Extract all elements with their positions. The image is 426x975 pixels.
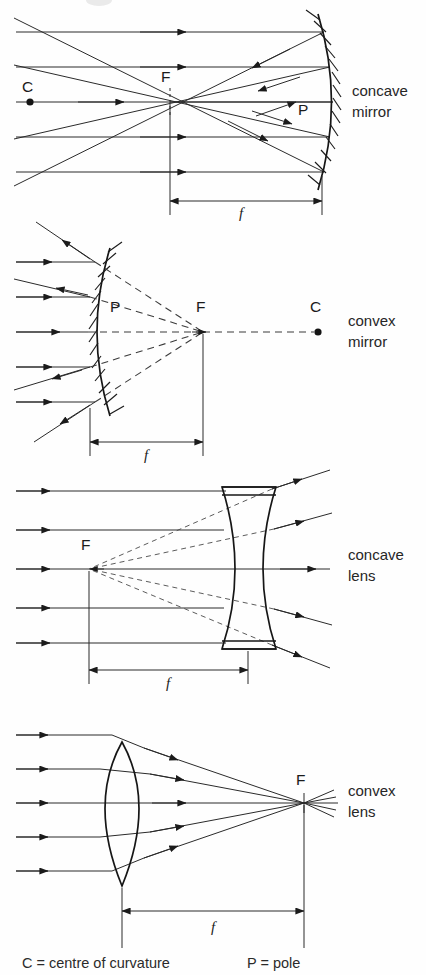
caption-concave-mirror-line1: concave xyxy=(352,82,408,99)
incident-ray-arrowheads-2 xyxy=(16,262,60,402)
convex-mirror-surface xyxy=(89,242,124,416)
concave-mirror-surface xyxy=(306,10,341,190)
label-focal-point-4: F xyxy=(296,771,305,788)
convex-lens-body xyxy=(105,742,139,886)
incident-rays-group-3 xyxy=(16,491,330,643)
diagram-convex-lens: F f convex lens xyxy=(16,735,396,948)
centre-of-curvature-point-2 xyxy=(314,328,321,335)
diagram-concave-mirror: F C P f concave mirror xyxy=(14,10,408,221)
caption-concave-lens-line1: concave xyxy=(348,546,404,563)
caption-convex-mirror-line2: mirror xyxy=(348,333,387,350)
label-focal-length-2: f xyxy=(144,447,150,463)
caption-convex-lens-line1: convex xyxy=(348,782,396,799)
concave-lens-body xyxy=(222,487,276,649)
label-focal-point-1: F xyxy=(161,68,170,85)
label-focal-length-1: f xyxy=(239,205,245,221)
refracted-ray-arrowheads-3 xyxy=(272,479,304,657)
caption-convex-lens-line2: lens xyxy=(348,803,376,820)
centre-of-curvature-point xyxy=(26,98,33,105)
figure-legend: C = centre of curvature P = pole xyxy=(22,955,300,971)
virtual-rays-group-3 xyxy=(89,489,274,645)
legend-pole: P = pole xyxy=(247,955,300,971)
focal-length-dimension-3 xyxy=(89,571,248,684)
caption-convex-mirror-line1: convex xyxy=(348,312,396,329)
diagram-concave-lens: F f concave lens xyxy=(16,470,404,691)
caption-concave-mirror-line2: mirror xyxy=(352,103,391,120)
label-focal-length-4: f xyxy=(211,919,217,935)
label-centre-2: C xyxy=(310,298,321,315)
legend-centre-of-curvature: C = centre of curvature xyxy=(22,955,170,971)
post-focus-rays-4 xyxy=(304,790,338,817)
diagram-convex-mirror: P F C f convex mirror xyxy=(14,222,396,463)
incident-rays-group-2 xyxy=(16,262,95,402)
label-pole-2: P xyxy=(110,298,120,315)
optics-diagram-canvas: F C P f concave mirror xyxy=(0,0,426,975)
label-focal-point-2: F xyxy=(196,298,205,315)
in-lens-rays-4 xyxy=(94,735,152,871)
label-centre-1: C xyxy=(22,78,33,95)
optics-figure-sheet: F C P f concave mirror xyxy=(0,0,426,975)
focal-length-dimension-2 xyxy=(90,334,203,456)
incident-ray-arrowheads-3 xyxy=(16,491,50,643)
label-focal-point-3: F xyxy=(81,536,90,553)
caption-concave-lens-line2: lens xyxy=(348,567,376,584)
label-pole-1: P xyxy=(298,101,308,118)
refracted-rays-group-4 xyxy=(144,748,304,858)
label-focal-length-3: f xyxy=(166,675,172,691)
mirror-hatching xyxy=(306,10,341,185)
incident-ray-arrowheads-4 xyxy=(16,735,48,871)
mirror-hatching-2 xyxy=(89,242,124,414)
